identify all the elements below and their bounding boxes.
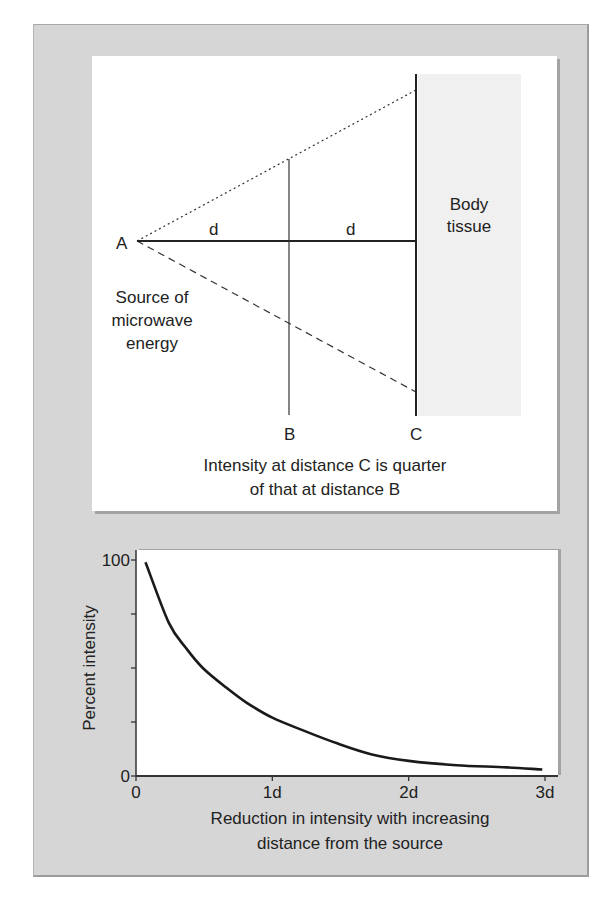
chart-caption-line-2: distance from the source — [257, 834, 443, 853]
x-tick-label: 0 — [131, 783, 140, 802]
diagram-caption-line-2: of that at distance B — [250, 480, 400, 499]
source-label-line-3: energy — [126, 334, 178, 353]
distance-label-1: d — [209, 220, 218, 239]
x-tick-label: 2d — [399, 783, 418, 802]
tissue-label-line-2: tissue — [447, 217, 491, 236]
y-tick-label: 0 — [121, 767, 130, 786]
chart-ticks: 010001d2d3d — [102, 551, 555, 802]
point-b-label: B — [284, 425, 295, 444]
distance-label-2: d — [346, 220, 355, 239]
source-label-line-2: microwave — [111, 311, 192, 330]
tissue-label-line-1: Body — [450, 195, 489, 214]
source-label-line-1: Source of — [116, 288, 189, 307]
intensity-curve — [146, 562, 543, 769]
chart-series — [146, 562, 543, 769]
x-tick-label: 1d — [263, 783, 282, 802]
x-tick-label: 3d — [536, 783, 555, 802]
y-tick-label: 100 — [102, 551, 130, 570]
point-c-label: C — [410, 425, 422, 444]
body-tissue-region — [418, 74, 521, 416]
y-axis-label: Percent intensity — [80, 605, 99, 731]
diagram-caption-line-1: Intensity at distance C is quarter — [204, 456, 447, 475]
figure-svg: A B C d d Body tissue Source of microwav… — [0, 0, 614, 901]
upper-beam-dotted-line — [137, 90, 416, 241]
point-a-label: A — [116, 234, 128, 253]
chart-caption-line-1: Reduction in intensity with increasing — [211, 809, 490, 828]
